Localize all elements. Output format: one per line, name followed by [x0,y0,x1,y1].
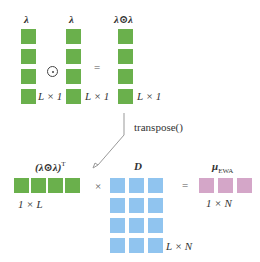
transpose-label: transpose() [134,121,183,133]
matrix-cell [148,178,163,193]
matrix-dim: L × N [166,240,192,252]
matrix-cell [129,238,144,253]
matrix-cell [110,218,125,233]
matrix-cell [129,218,144,233]
matrix-cell [110,198,125,213]
matrix-label: D [134,160,142,172]
result-cell [218,178,233,193]
matrix-cell [148,198,163,213]
matrix-cell [110,238,125,253]
matrix-cell [129,198,144,213]
matrix-cell [110,178,125,193]
vector-cell [14,178,29,193]
transposed-vector-label-text: (λ⊙λ) [35,161,61,173]
matrix-cell [148,238,163,253]
matrix-cell [148,218,163,233]
vector-cell [48,178,63,193]
transposed-vector-dim: 1 × L [18,198,43,210]
transposed-dim-text: 1 × L [18,198,43,210]
vector-cell [31,178,46,193]
result-cell [237,178,252,193]
times-operator: × [95,180,101,192]
vector-cell [65,178,80,193]
result-cell [199,178,214,193]
equals-operator-bottom: = [182,179,188,191]
matrix-cell [129,178,144,193]
result-mu-label: μEWA [212,160,233,175]
transposed-vector-label: (λ⊙λ)T [35,160,66,174]
ewa-subscript: EWA [218,167,233,175]
transpose-superscript: T [61,160,65,168]
result-mu-dim: 1 × N [206,197,232,209]
